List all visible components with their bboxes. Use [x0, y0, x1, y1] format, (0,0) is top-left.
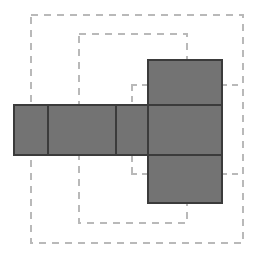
- diagram-canvas: [0, 0, 258, 261]
- square-top: [148, 60, 222, 105]
- square-row-1: [14, 105, 48, 155]
- net-squares-layer: [14, 60, 222, 203]
- square-row-2: [48, 105, 116, 155]
- square-row-3: [116, 105, 148, 155]
- cube-net-figure: [0, 0, 258, 261]
- square-row-4: [148, 105, 222, 155]
- square-bottom: [148, 155, 222, 203]
